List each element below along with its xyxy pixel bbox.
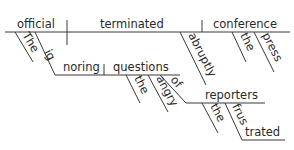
- reporters-adjective-word-part2: trated: [245, 125, 280, 139]
- subject-word: official: [17, 17, 55, 31]
- sentence-diagram: official terminated conference The ig no…: [0, 0, 294, 150]
- gerund-word-part2: noring: [63, 60, 100, 74]
- direct-object-word: conference: [213, 17, 277, 31]
- gerund-object-word: questions: [113, 60, 169, 74]
- conference-noun-modifier-word: press: [259, 30, 285, 64]
- gerund-word-part1: ig: [41, 47, 58, 63]
- reporters-adjective-word-part1: frus: [229, 101, 251, 127]
- prepositional-object-word: reporters: [205, 88, 258, 102]
- adverb-word: abruptly: [185, 30, 219, 79]
- verb-word: terminated: [100, 17, 164, 31]
